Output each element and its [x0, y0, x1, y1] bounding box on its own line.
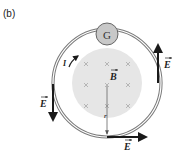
magnetic-field-label: B — [109, 71, 117, 82]
current-label: I — [62, 59, 67, 68]
electric-field-label-bottom: E — [123, 141, 131, 151]
electric-field-label-left: E — [39, 98, 47, 109]
electric-field-label-right: E — [163, 59, 171, 70]
galvanometer-label: G — [103, 29, 111, 41]
radius-label: r — [104, 112, 107, 120]
current-direction-arrow — [69, 56, 78, 67]
faraday-ring-diagram: (b) G B r I E E E — [0, 0, 176, 151]
panel-label: (b) — [3, 8, 15, 19]
